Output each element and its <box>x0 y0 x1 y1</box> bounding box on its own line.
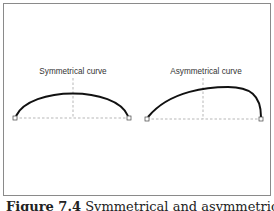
anchor-point-left-icon <box>145 117 149 121</box>
figure-caption: Figure 7.4 Symmetrical and asymmetrical … <box>6 200 274 211</box>
asymmetrical-curve-panel: Asymmetrical curve <box>145 67 263 121</box>
symmetrical-curve-path <box>16 94 128 117</box>
anchor-point-right-icon <box>127 116 131 120</box>
curves-diagram: Symmetrical curve Asymmetrical curve <box>0 0 274 211</box>
asymmetrical-curve-path <box>148 87 261 117</box>
symmetrical-curve-label: Symmetrical curve <box>39 67 107 76</box>
anchor-point-left-icon <box>13 116 17 120</box>
asymmetrical-curve-label: Asymmetrical curve <box>170 67 242 76</box>
anchor-point-right-icon <box>259 117 263 121</box>
symmetrical-curve-panel: Symmetrical curve <box>13 67 131 120</box>
figure-number: Figure 7.4 <box>6 199 81 211</box>
figure-caption-text: Symmetrical and asymmetrical curves <box>85 199 274 211</box>
